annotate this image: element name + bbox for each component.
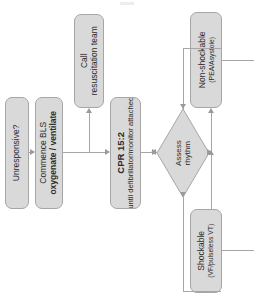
edge-assess-to-shockable: [183, 196, 184, 292]
node-assess-rhythm[interactable]: Assess rhythm: [156, 108, 210, 198]
edge-shockable-return-arrowhead: [208, 150, 214, 155]
edge-assess-to-non-shockable-leg: [183, 48, 221, 49]
edge-bls-to-call-team-arrowhead: [86, 108, 92, 113]
node-call-resuscitation-team-line1: Call: [79, 54, 89, 69]
edge-assess-to-shockable-leg: [183, 291, 221, 292]
node-non-shockable[interactable]: Non-shockable (PEA/Asystole): [190, 12, 222, 108]
edge-bls-to-call-team: [89, 113, 90, 153]
node-commence-bls[interactable]: Commence BLS oxygenate / ventilate: [35, 97, 63, 209]
edge-bls-to-cpr: [63, 152, 108, 153]
edge-assess-to-non-shockable: [183, 48, 184, 110]
edge-shockable-branch-out: [222, 250, 254, 251]
edge-shockable-return: [211, 153, 212, 209]
node-call-resuscitation-team[interactable]: Call resuscitation team: [74, 14, 104, 108]
node-commence-bls-label: Commence BLS oxygenate / ventilate: [39, 111, 59, 195]
edge-unresponsive-to-bls-arrowhead: [30, 149, 35, 155]
node-assess-rhythm-line1: Assess: [174, 140, 183, 166]
node-shockable[interactable]: Shockable (VF/pulseless VT): [190, 209, 222, 293]
edge-assess-feed-non-shockable-arrowhead: [208, 108, 214, 113]
flowchart-canvas: Unresponsive? Commence BLS oxygenate / v…: [0, 0, 254, 298]
node-unresponsive[interactable]: Unresponsive?: [5, 97, 29, 209]
node-shockable-line2: (VF/pulseless VT): [207, 224, 215, 278]
node-call-resuscitation-team-label: Call resuscitation team: [79, 27, 99, 96]
page-edge-mark: [120, 2, 134, 5]
node-cpr-label: CPR 15:2 until defibrillator/monitor att…: [116, 97, 136, 209]
node-non-shockable-label: Non-shockable (PEA/Asystole): [197, 32, 215, 89]
node-assess-rhythm-line2: rhythm: [183, 141, 192, 165]
node-call-resuscitation-team-line2: resuscitation team: [89, 27, 99, 96]
node-commence-bls-line2: oxygenate / ventilate: [49, 111, 59, 195]
node-assess-rhythm-label: Assess rhythm: [156, 108, 210, 198]
edge-bls-to-cpr-arrowhead: [105, 149, 110, 155]
node-shockable-label: Shockable (VF/pulseless VT): [197, 224, 215, 278]
node-cpr-line2: until defibrillator/monitor attached: [127, 97, 136, 209]
edge-assess-to-shockable-arrowhead: [180, 192, 186, 197]
node-unresponsive-label: Unresponsive?: [12, 125, 22, 182]
edge-assess-feed-non-shockable: [211, 113, 212, 153]
edge-non-shockable-branch-out: [222, 60, 254, 61]
node-non-shockable-line2: (PEA/Asystole): [207, 37, 215, 83]
node-cpr-line1: CPR 15:2: [116, 132, 127, 174]
node-non-shockable-line1: Non-shockable: [197, 32, 207, 89]
edge-assess-to-non-shockable-arrowhead: [180, 104, 186, 109]
node-unresponsive-line1: Unresponsive?: [12, 125, 22, 182]
node-shockable-line1: Shockable: [197, 231, 207, 271]
edge-assess-left-vertex-arrowhead: [151, 149, 156, 155]
node-cpr[interactable]: CPR 15:2 until defibrillator/monitor att…: [110, 97, 141, 209]
